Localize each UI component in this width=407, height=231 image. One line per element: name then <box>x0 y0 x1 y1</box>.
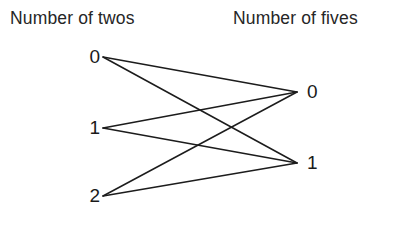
edge-1-to-0 <box>103 92 297 128</box>
edge-2-to-1 <box>103 163 297 196</box>
edge-canvas <box>0 0 407 231</box>
right-node-0: 0 <box>307 81 329 103</box>
bipartite-graph-diagram: Number of twos Number of fives 012 01 <box>0 0 407 231</box>
left-node-1: 1 <box>78 117 100 139</box>
right-node-1: 1 <box>307 152 329 174</box>
edge-2-to-0 <box>103 92 297 196</box>
edge-0-to-0 <box>103 57 297 92</box>
left-node-2: 2 <box>78 185 100 207</box>
left-node-0: 0 <box>78 46 100 68</box>
edge-1-to-1 <box>103 128 297 163</box>
